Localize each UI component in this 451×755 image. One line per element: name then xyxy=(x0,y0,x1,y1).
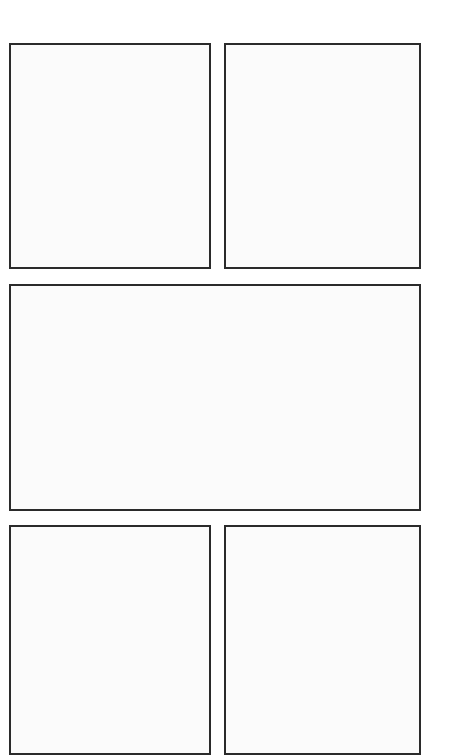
comic-panel-bottom-left xyxy=(9,525,211,755)
comic-panel-middle-wide xyxy=(9,284,421,511)
comic-panel-top-left xyxy=(9,43,211,269)
comic-panel-top-right xyxy=(224,43,421,269)
comic-panel-bottom-right xyxy=(224,525,421,755)
